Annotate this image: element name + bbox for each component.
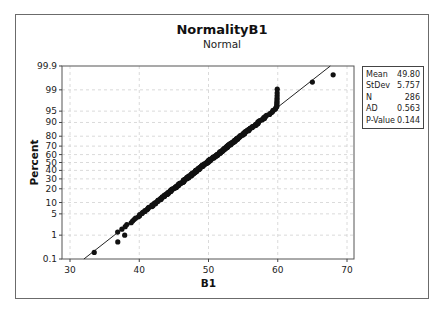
y-tick-label: 0.1 xyxy=(43,254,57,264)
stat-label: StDev xyxy=(366,80,390,91)
stats-legend-box: Mean49.80StDev5.757N286AD0.563P-Value0.1… xyxy=(362,66,424,129)
stat-label: N xyxy=(366,92,372,103)
stat-value: 0.563 xyxy=(397,103,420,114)
y-tick-label: 80 xyxy=(46,131,58,141)
probability-plot: 0.115102030405060708090959999.9304050607… xyxy=(0,0,444,316)
stat-label: AD xyxy=(366,103,378,114)
stat-row-pvalue: P-Value0.144 xyxy=(366,115,420,126)
stat-value: 0.144 xyxy=(397,115,420,126)
y-axis-label: Percent xyxy=(28,140,40,186)
y-tick-label: 99.9 xyxy=(37,61,57,71)
stat-value: 286 xyxy=(405,92,420,103)
stat-row-stdev: StDev5.757 xyxy=(366,80,420,91)
data-point xyxy=(115,229,120,234)
x-tick-label: 70 xyxy=(341,265,353,275)
data-point xyxy=(310,79,315,84)
data-point xyxy=(115,239,120,244)
stat-row-ad: AD0.563 xyxy=(366,103,420,114)
y-tick-label: 70 xyxy=(46,141,58,151)
x-tick-label: 40 xyxy=(134,265,146,275)
y-tick-label: 10 xyxy=(46,198,58,208)
y-tick-label: 20 xyxy=(46,184,58,194)
y-tick-label: 1 xyxy=(51,230,57,240)
stat-label: Mean xyxy=(366,69,388,80)
stat-label: P-Value xyxy=(366,115,395,126)
stat-row-mean: Mean49.80 xyxy=(366,69,420,80)
y-tick-label: 5 xyxy=(51,209,57,219)
x-tick-label: 50 xyxy=(203,265,215,275)
x-axis-label: B1 xyxy=(201,277,216,289)
stat-value: 5.757 xyxy=(397,80,420,91)
y-tick-label: 95 xyxy=(46,106,57,116)
data-point xyxy=(92,250,97,255)
x-tick-label: 30 xyxy=(64,265,76,275)
y-tick-label: 90 xyxy=(46,117,58,127)
data-point xyxy=(331,72,336,77)
data-point xyxy=(122,233,127,238)
x-tick-label: 60 xyxy=(272,265,284,275)
stat-value: 49.80 xyxy=(397,69,420,80)
y-tick-label: 99 xyxy=(46,85,58,95)
stat-row-n: N286 xyxy=(366,92,420,103)
data-point xyxy=(275,87,280,92)
